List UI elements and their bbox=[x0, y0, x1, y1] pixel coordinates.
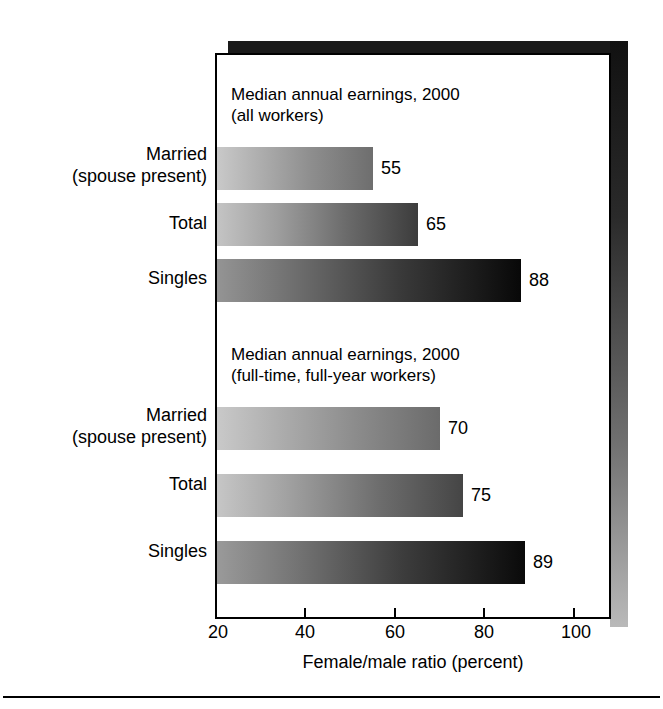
category-label-singles-2: Singles bbox=[10, 540, 207, 562]
bar-singles-all-workers bbox=[217, 259, 521, 302]
category-label-singles-1: Singles bbox=[10, 267, 207, 289]
category-label-married-1: Married (spouse present) bbox=[10, 143, 207, 187]
x-tick-80 bbox=[483, 608, 485, 617]
category-label-married-2: Married (spouse present) bbox=[10, 404, 207, 448]
group-1-heading-line2: (all workers) bbox=[231, 105, 460, 126]
bar-value-55: 55 bbox=[381, 158, 401, 179]
group-1-heading-line1: Median annual earnings, 2000 bbox=[231, 85, 460, 104]
panel-shadow-right bbox=[610, 41, 628, 627]
bar-singles-full-time bbox=[217, 541, 525, 584]
x-tick-100 bbox=[573, 608, 575, 617]
plot-area: Median annual earnings, 2000 (all worker… bbox=[217, 55, 609, 617]
bar-value-65: 65 bbox=[426, 214, 446, 235]
x-tick-label-100: 100 bbox=[561, 622, 591, 643]
category-label-married2-line2: (spouse present) bbox=[72, 427, 207, 447]
category-labels: Married (spouse present) Total Singles M… bbox=[0, 0, 207, 709]
category-label-married2-line1: Married bbox=[146, 405, 207, 425]
category-label-total-2: Total bbox=[10, 473, 207, 495]
x-tick-40 bbox=[304, 608, 306, 617]
x-tick-label-60: 60 bbox=[385, 622, 405, 643]
group-2-heading-line1: Median annual earnings, 2000 bbox=[231, 345, 460, 364]
x-tick-20 bbox=[215, 608, 217, 617]
x-tick-label-80: 80 bbox=[474, 622, 494, 643]
bar-value-88: 88 bbox=[529, 270, 549, 291]
chart-panel: Median annual earnings, 2000 (all worker… bbox=[215, 53, 611, 619]
figure: Married (spouse present) Total Singles M… bbox=[0, 0, 663, 709]
bar-value-75: 75 bbox=[471, 485, 491, 506]
group-2-heading: Median annual earnings, 2000 (full-time,… bbox=[231, 344, 460, 386]
group-1-heading: Median annual earnings, 2000 (all worker… bbox=[231, 84, 460, 126]
x-axis-line bbox=[215, 617, 611, 619]
bottom-divider bbox=[3, 696, 660, 698]
category-label-total-1: Total bbox=[10, 212, 207, 234]
bar-value-70: 70 bbox=[448, 418, 468, 439]
bar-married-full-time bbox=[217, 407, 440, 450]
bar-total-all-workers bbox=[217, 203, 418, 246]
bar-value-89: 89 bbox=[533, 552, 553, 573]
x-tick-60 bbox=[394, 608, 396, 617]
category-label-married-line1: Married bbox=[146, 144, 207, 164]
bar-total-full-time bbox=[217, 474, 463, 517]
x-tick-label-40: 40 bbox=[295, 622, 315, 643]
group-2-heading-line2: (full-time, full-year workers) bbox=[231, 365, 460, 386]
x-axis-title: Female/male ratio (percent) bbox=[215, 652, 611, 673]
x-tick-label-20: 20 bbox=[208, 622, 228, 643]
category-label-married-line2: (spouse present) bbox=[72, 166, 207, 186]
bar-married-all-workers bbox=[217, 147, 373, 190]
